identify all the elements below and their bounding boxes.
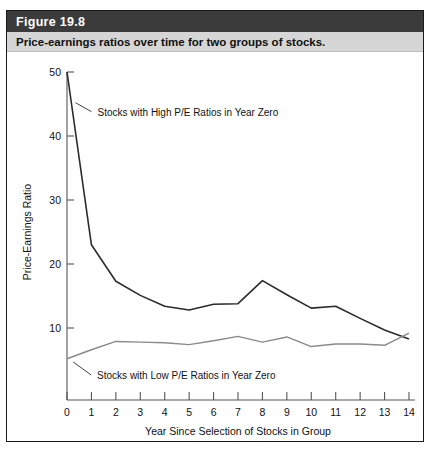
annotation-leader-high-pe	[76, 103, 92, 112]
x-axis-tick-label: 6	[211, 406, 217, 418]
figure-caption-text: Price-earnings ratios over time for two …	[16, 36, 325, 48]
series-line-low-pe	[67, 333, 409, 359]
x-axis-tick-label: 12	[354, 406, 366, 418]
x-axis-tick-label: 13	[379, 406, 391, 418]
annotation-leader-low-pe	[73, 362, 91, 375]
figure-caption-bar: Price-earnings ratios over time for two …	[7, 32, 423, 52]
x-axis-tick-label: 4	[162, 406, 168, 418]
x-axis-tick-label: 1	[89, 406, 95, 418]
y-axis-tick-label: 50	[49, 66, 61, 78]
figure-number-label: Figure 19.8	[16, 15, 85, 29]
x-axis-tick-label: 9	[284, 406, 290, 418]
x-axis-tick-label: 0	[64, 406, 70, 418]
x-axis-tick-label: 11	[330, 406, 341, 418]
x-axis-tick-label: 7	[235, 406, 241, 418]
figure-container: Figure 19.8 Price-earnings ratios over t…	[6, 10, 424, 442]
price-earnings-line-chart: 102030405001234567891011121314Year Since…	[7, 52, 423, 441]
x-axis-tick-label: 10	[305, 406, 317, 418]
y-axis-title: Price-Earnings Ratio	[21, 184, 33, 280]
y-axis-tick-label: 20	[49, 258, 61, 270]
x-axis-tick-label: 8	[260, 406, 266, 418]
y-axis-tick-label: 30	[49, 194, 61, 206]
figure-header-bar: Figure 19.8	[7, 11, 423, 32]
x-axis-title: Year Since Selection of Stocks in Group	[145, 425, 331, 437]
chart-plot-area: 102030405001234567891011121314Year Since…	[7, 52, 423, 441]
annotation-label-low-pe: Stocks with Low P/E Ratios in Year Zero	[97, 370, 276, 381]
y-axis-tick-label: 10	[49, 322, 61, 334]
x-axis-tick-label: 2	[113, 406, 119, 418]
x-axis-tick-label: 5	[186, 406, 192, 418]
annotation-label-high-pe: Stocks with High P/E Ratios in Year Zero	[98, 107, 279, 118]
x-axis-tick-label: 14	[403, 406, 415, 418]
y-axis-tick-label: 40	[49, 130, 61, 142]
x-axis-tick-label: 3	[137, 406, 143, 418]
